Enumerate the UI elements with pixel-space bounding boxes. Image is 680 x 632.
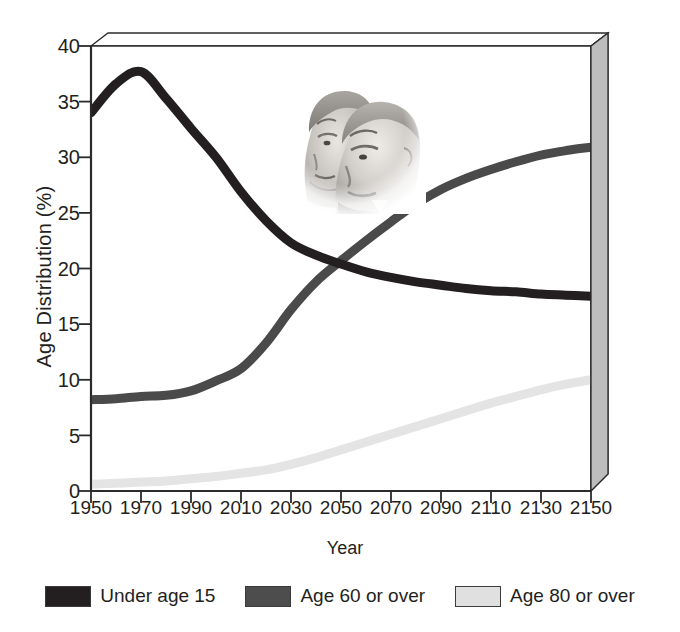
x-tick-label: 2150 [556, 497, 626, 519]
legend-item-under-age-15: Under age 15 [45, 585, 215, 607]
legend-label: Under age 15 [100, 585, 215, 607]
legend-swatch-icon [455, 586, 501, 607]
legend-label: Age 80 or over [510, 585, 635, 607]
legend-swatch-icon [45, 586, 91, 607]
legend-item-age-60-or-over: Age 60 or over [245, 585, 425, 607]
chart-legend: Under age 15 Age 60 or over Age 80 or ov… [0, 585, 680, 607]
x-axis-tick-labels: 1950 1970 1990 2010 2030 2050 2070 2090 … [0, 0, 680, 632]
legend-item-age-80-or-over: Age 80 or over [455, 585, 635, 607]
chart-figure: Age Distribution (%) Year 40 35 30 25 20… [0, 0, 680, 632]
legend-label: Age 60 or over [300, 585, 425, 607]
legend-swatch-icon [245, 586, 291, 607]
